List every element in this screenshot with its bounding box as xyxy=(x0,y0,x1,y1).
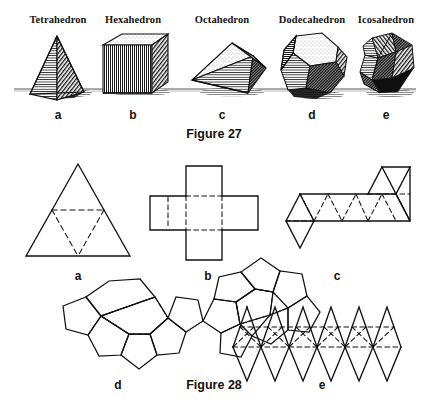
item-letter-b-fig28: b xyxy=(204,269,211,283)
item-letter-e-fig28: e xyxy=(319,378,326,392)
figure-page: Tetrahedron Hexahedron Octahedron Dodeca… xyxy=(0,0,429,415)
figure-27-illustration xyxy=(0,0,429,415)
solid-label-dodecahedron: Dodecahedron xyxy=(279,14,345,25)
solid-label-tetrahedron: Tetrahedron xyxy=(29,14,86,25)
ground-line xyxy=(14,89,416,91)
icosahedron-solid-icon xyxy=(360,33,414,97)
item-letter-c-fig28: c xyxy=(334,269,341,283)
item-letter-a-fig28: a xyxy=(75,269,82,283)
octahedron-solid-icon xyxy=(192,43,266,96)
item-letter-c-fig27: c xyxy=(219,108,226,122)
octahedron-net-icon xyxy=(286,167,410,248)
figure-28-caption: Figure 28 xyxy=(186,378,242,392)
icosahedron-net-icon xyxy=(233,307,401,381)
tetrahedron-solid-icon xyxy=(30,36,92,100)
item-letter-d-fig28: d xyxy=(114,378,121,392)
item-letter-e-fig27: e xyxy=(383,108,390,122)
item-letter-b-fig27: b xyxy=(129,108,136,122)
figure-27-caption: Figure 27 xyxy=(186,127,242,141)
solid-label-icosahedron: Icosahedron xyxy=(358,14,414,25)
dodecahedron-solid-icon xyxy=(281,33,347,99)
item-letter-a-fig27: a xyxy=(55,108,62,122)
solid-label-octahedron: Octahedron xyxy=(195,14,249,25)
dodecahedron-net-icon xyxy=(63,258,320,369)
figure-28-illustration xyxy=(0,0,429,415)
hexahedron-solid-icon xyxy=(103,34,170,96)
item-letter-d-fig27: d xyxy=(308,108,315,122)
tetrahedron-net-icon xyxy=(26,164,130,256)
hexahedron-net-icon xyxy=(150,166,258,260)
solid-label-hexahedron: Hexahedron xyxy=(105,14,161,25)
